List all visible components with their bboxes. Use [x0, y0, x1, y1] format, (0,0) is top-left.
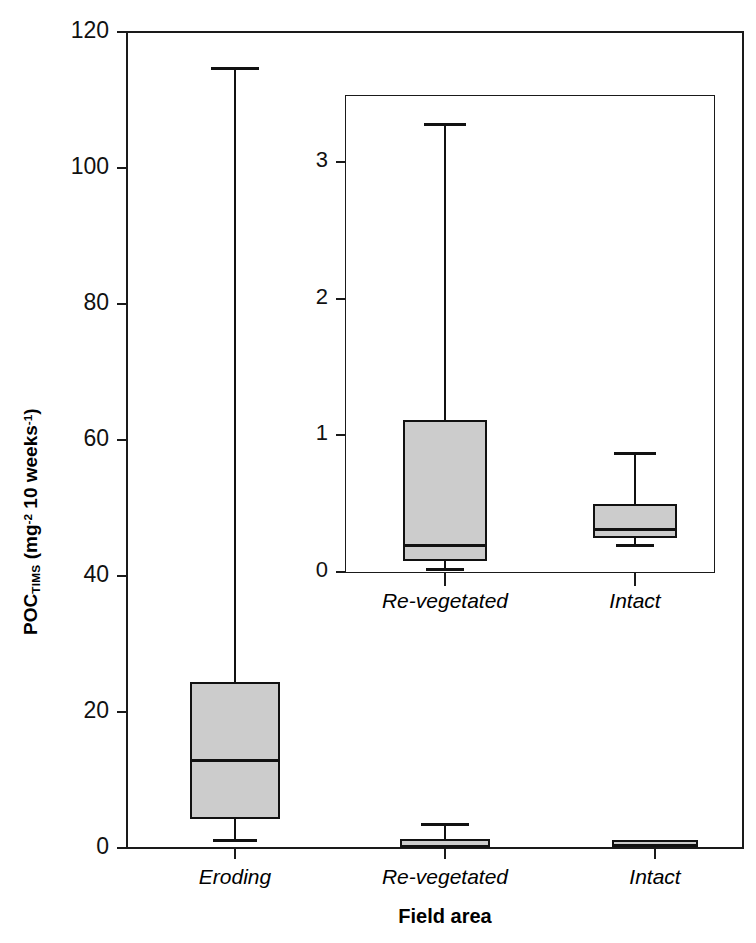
main-axis-top-spine	[126, 31, 744, 33]
inset-y-tick-mark-1	[336, 434, 345, 436]
inset-boxplot-intact-upper-whisker	[634, 453, 636, 505]
x-tick-mark-intact	[654, 849, 656, 859]
inset-y-tick-label-1: 1	[286, 422, 328, 444]
inset-y-tick-mark-2	[336, 298, 345, 300]
boxplot-revegetated-lower-whisker	[444, 845, 446, 849]
boxplot-eroding-lower-whisker	[234, 818, 236, 841]
y-axis-title-mid: 10 weeks	[20, 425, 41, 514]
y-tick-mark-100	[117, 167, 126, 169]
x-axis-title: Field area	[345, 905, 545, 928]
y-axis-title-open: (mg	[20, 524, 41, 564]
y-axis-title-sup2: -1	[21, 415, 34, 425]
y-tick-label-20: 20	[45, 699, 109, 722]
y-tick-label-100: 100	[31, 155, 109, 178]
y-axis-title-sub: TIMS	[29, 565, 42, 594]
x-tick-mark-revegetated	[444, 849, 446, 859]
inset-x-axis-label-intact: Intact	[565, 589, 705, 613]
y-tick-label-0: 0	[45, 835, 109, 858]
x-tick-mark-eroding	[234, 849, 236, 859]
inset-y-tick-label-0: 0	[286, 559, 328, 581]
y-tick-mark-120	[117, 31, 126, 33]
inset-y-tick-label-2: 2	[286, 286, 328, 308]
boxplot-eroding-box	[190, 682, 280, 819]
inset-boxplot-revegetated-upper-cap	[424, 123, 466, 126]
inset-boxplot-revegetated-upper-whisker	[444, 124, 446, 421]
x-axis-label-revegetated: Re-vegetated	[335, 865, 555, 889]
inset-x-tick-mark-intact	[634, 572, 636, 586]
inset-boxplot-revegetated-median	[403, 544, 487, 547]
y-axis-title-sup1: -2	[21, 514, 34, 524]
y-axis-title-close: )	[20, 408, 41, 414]
inset-x-axis-label-revegetated: Re-vegetated	[355, 589, 535, 613]
boxplot-revegetated-upper-whisker	[444, 824, 446, 840]
inset-boxplot-intact-box	[593, 504, 677, 538]
boxplot-eroding-lower-cap	[213, 839, 257, 842]
y-tick-label-40: 40	[45, 563, 109, 586]
inset-x-tick-mark-revegetated	[444, 572, 446, 586]
inset-boxplot-intact-lower-cap	[616, 544, 654, 547]
x-axis-label-intact: Intact	[565, 865, 745, 889]
y-axis-title-base: POC	[20, 594, 41, 635]
y-tick-mark-40	[117, 575, 126, 577]
main-axis-left-spine	[126, 31, 128, 849]
inset-boxplot-revegetated-lower-cap	[426, 568, 464, 571]
inset-boxplot-revegetated-box	[403, 420, 487, 561]
boxplot-eroding-upper-whisker	[234, 68, 236, 682]
y-axis-title: POCTIMS (mg-2 10 weeks-1)	[20, 408, 42, 635]
y-tick-mark-60	[117, 439, 126, 441]
inset-y-tick-mark-0	[336, 571, 345, 573]
y-tick-mark-20	[117, 711, 126, 713]
boxplot-eroding-upper-cap	[211, 67, 259, 70]
y-tick-label-80: 80	[45, 291, 109, 314]
inset-y-tick-label-3: 3	[286, 149, 328, 171]
y-tick-label-120: 120	[31, 19, 109, 42]
boxplot-revegetated-upper-cap	[421, 823, 469, 826]
inset-plot-frame	[345, 95, 715, 573]
y-tick-mark-80	[117, 303, 126, 305]
chart-figure: POCTIMS (mg-2 10 weeks-1) 0 20 40 60 80 …	[0, 0, 756, 943]
y-tick-mark-0	[117, 847, 126, 849]
y-tick-label-60: 60	[45, 427, 109, 450]
inset-boxplot-intact-upper-cap	[614, 452, 656, 455]
main-axis-right-spine	[742, 31, 744, 849]
boxplot-intact-median	[612, 844, 698, 847]
inset-y-tick-mark-3	[336, 161, 345, 163]
x-axis-label-eroding: Eroding	[135, 865, 335, 889]
boxplot-eroding-median	[190, 759, 280, 762]
inset-boxplot-intact-median	[593, 528, 677, 531]
